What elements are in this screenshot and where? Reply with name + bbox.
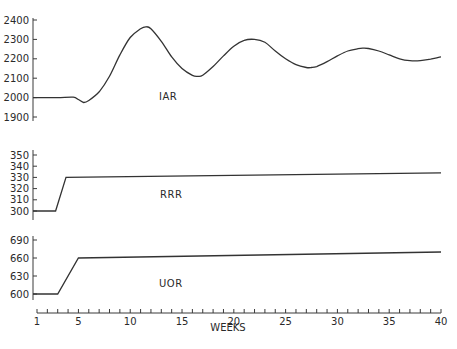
tick-labels: 1900200021002200230024003003103203303403… <box>4 15 448 328</box>
y-tick-label: 2100 <box>4 73 29 84</box>
x-tick-label: 35 <box>383 316 396 327</box>
y-tick-label: 310 <box>10 194 29 205</box>
series-line-uor <box>33 252 441 294</box>
y-tick-label: 690 <box>10 235 29 246</box>
y-tick-label: 340 <box>10 161 29 172</box>
x-tick-label: 5 <box>75 316 81 327</box>
y-tick-label: 2000 <box>4 92 29 103</box>
x-tick-label: 1 <box>34 316 40 327</box>
y-tick-label: 350 <box>10 150 29 161</box>
chart-figure: 1900200021002200230024003003103203303403… <box>0 0 457 349</box>
series-label-uor: UOR <box>159 278 183 289</box>
series-label-rrr: RRR <box>160 189 182 200</box>
y-tick-label: 1900 <box>4 112 29 123</box>
series-line-iar <box>33 27 441 103</box>
y-tick-label: 600 <box>10 289 29 300</box>
axes <box>33 18 441 313</box>
chart-svg: 1900200021002200230024003003103203303403… <box>0 0 457 349</box>
y-tick-label: 300 <box>10 206 29 217</box>
x-tick-label: 10 <box>124 316 137 327</box>
y-tick-label: 2200 <box>4 53 29 64</box>
x-axis-title: WEEKS <box>210 322 245 333</box>
y-tick-label: 630 <box>10 271 29 282</box>
y-tick-label: 320 <box>10 183 29 194</box>
x-tick-label: 25 <box>279 316 292 327</box>
series-line-rrr <box>33 173 441 211</box>
x-tick-label: 40 <box>435 316 448 327</box>
series-lines <box>33 27 441 294</box>
y-tick-label: 2400 <box>4 15 29 26</box>
x-tick-label: 15 <box>176 316 189 327</box>
y-tick-label: 660 <box>10 253 29 264</box>
y-tick-label: 330 <box>10 172 29 183</box>
x-tick-label: 30 <box>331 316 344 327</box>
y-tick-label: 2300 <box>4 34 29 45</box>
series-label-iar: IAR <box>159 91 177 102</box>
